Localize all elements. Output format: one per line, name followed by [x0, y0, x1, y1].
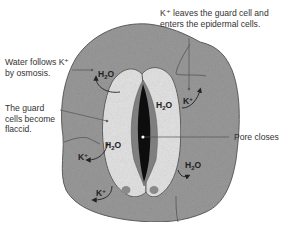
nucleus-right — [150, 186, 159, 194]
callout-guard-flaccid: The guard cells become flaccid. — [5, 103, 55, 135]
callout-pore-closes: Pore closes — [234, 132, 279, 143]
nucleus-left — [122, 186, 131, 194]
callout-k-leaves: K⁺ leaves the guard cell and enters the … — [160, 8, 269, 29]
guard-cells — [102, 68, 180, 197]
callout-water-follows: Water follows K⁺ by osmosis. — [5, 57, 69, 78]
